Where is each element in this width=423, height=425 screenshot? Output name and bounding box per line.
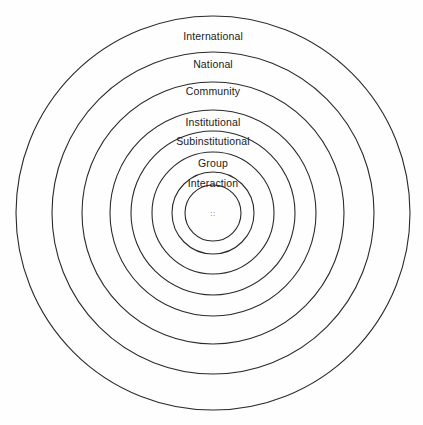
ring-label-community: Community xyxy=(186,85,240,97)
center-core-mark: :: xyxy=(210,210,215,218)
ring-label-international: International xyxy=(183,30,243,42)
concentric-levels-diagram: International National Community Institu… xyxy=(0,0,423,425)
ring-label-subinstitutional: Subinstitutional xyxy=(176,135,250,147)
ring-label-group: Group xyxy=(198,157,228,169)
ring-label-institutional: Institutional xyxy=(185,116,240,128)
ring-label-interaction: Interaction xyxy=(188,177,239,189)
ring-label-national: National xyxy=(193,58,233,70)
